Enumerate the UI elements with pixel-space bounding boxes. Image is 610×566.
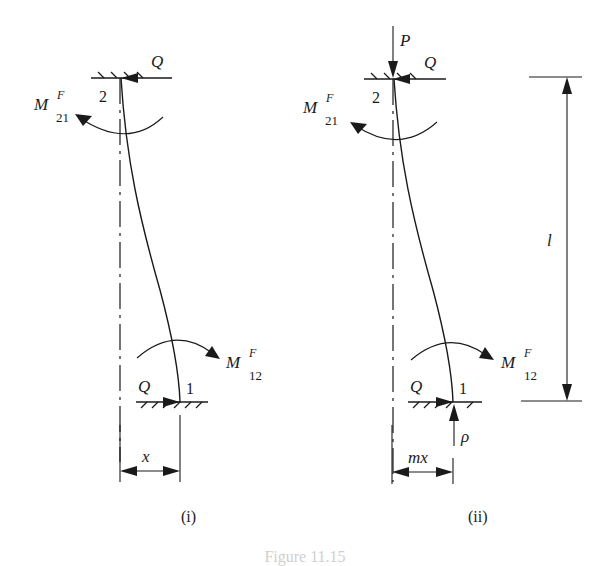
top-node-label: 2 [99, 88, 107, 105]
bottom-shear-label: Q [138, 377, 150, 396]
bottom-shear-arrow [163, 397, 180, 407]
svg-text:F: F [325, 91, 334, 105]
panel-i: Q 2 M F 21 M F 12 [33, 52, 262, 526]
svg-text:12: 12 [524, 368, 537, 383]
svg-text:M: M [500, 353, 516, 372]
svg-text:12: 12 [249, 368, 262, 383]
bottom-node-label: 1 [186, 380, 194, 397]
length-label: l [547, 231, 552, 250]
bottom-moment-arrow [137, 340, 220, 359]
bottom-shear-label: Q [410, 377, 422, 396]
axial-load-bottom-label: ρ [460, 427, 469, 446]
top-shear-label: Q [424, 53, 436, 72]
top-moment-arrow [75, 114, 163, 134]
bottom-shear-arrow [436, 397, 453, 407]
panel-label-ii: (ii) [468, 508, 488, 526]
top-shear-arrow [393, 74, 410, 84]
axial-load-bottom-arrow [449, 404, 459, 446]
offset-label: mx [408, 448, 428, 467]
svg-text:F: F [56, 88, 65, 102]
deflected-column [394, 79, 453, 402]
top-moment-label: M F 21 [302, 91, 338, 128]
panel-ii: P Q 2 M F 21 [302, 26, 582, 526]
panel-label-i: (i) [181, 508, 196, 526]
svg-text:F: F [248, 346, 257, 360]
offset-dimension [120, 415, 180, 482]
svg-text:F: F [523, 346, 532, 360]
figure-caption: Figure 11.15 [0, 548, 610, 566]
bottom-moment-arrow [411, 343, 494, 360]
top-shear-arrow [121, 73, 138, 83]
bottom-moment-label: M F 12 [500, 346, 537, 383]
svg-text:M: M [33, 95, 49, 114]
bottom-node-label: 1 [459, 380, 467, 397]
svg-text:21: 21 [56, 110, 69, 125]
bottom-moment-label: M F 12 [225, 346, 262, 383]
top-node-label: 2 [372, 89, 380, 106]
axial-load-top-arrow [388, 26, 398, 78]
top-moment-label: M F 21 [33, 88, 69, 125]
top-shear-label: Q [151, 52, 163, 71]
offset-label: x [141, 447, 150, 466]
svg-text:21: 21 [325, 113, 338, 128]
svg-text:M: M [302, 98, 318, 117]
axial-load-top-label: P [399, 31, 410, 50]
svg-text:M: M [225, 353, 241, 372]
